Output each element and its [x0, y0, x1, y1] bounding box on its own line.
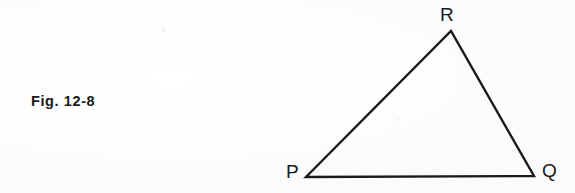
triangle-pqr-outline: [306, 31, 534, 177]
vertex-label-r: R: [440, 5, 454, 24]
figure-container: Fig. 12-8 P Q R: [0, 0, 575, 193]
vertex-label-p: P: [286, 162, 299, 181]
vertex-label-q: Q: [542, 161, 557, 180]
